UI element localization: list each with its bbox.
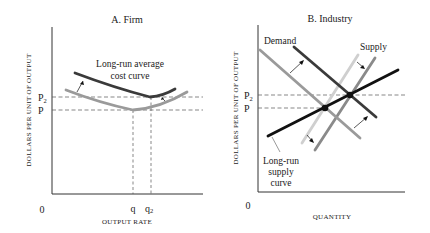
- firm-origin-label: 0: [40, 204, 45, 215]
- firm-q-label: q: [131, 203, 136, 214]
- industry-new-equilibrium-point: [347, 92, 354, 99]
- firm-p2-label: P2: [38, 92, 47, 104]
- supply-shift-arrowhead-lower: [309, 138, 314, 143]
- firm-x-axis-label: OUTPUT RATE: [102, 218, 152, 226]
- firm-curve-label-line2: cost curve: [111, 71, 150, 81]
- industry-shifted-demand-curve: [294, 47, 376, 117]
- industry-x-axis-label: QUANTITY: [313, 213, 352, 221]
- panel-firm: A. Firm DOLLARS PER UNIT OF OUTPUT P2 P …: [25, 14, 203, 226]
- industry-demand-label: Demand: [264, 36, 296, 46]
- panel-industry: B. Industry DOLLARS PER UNIT OF OUTPUT P…: [232, 13, 405, 221]
- industry-title: B. Industry: [308, 13, 353, 24]
- industry-p-label: P: [244, 103, 250, 114]
- firm-title: A. Firm: [111, 14, 143, 25]
- industry-initial-demand-curve: [260, 50, 360, 138]
- industry-supply-label: Supply: [360, 42, 387, 52]
- industry-p2-label: P2: [244, 90, 253, 102]
- lrs-label-leader: [272, 137, 280, 152]
- firm-q2-label: q2: [145, 203, 153, 214]
- lrs-label-line2: supply: [268, 167, 294, 177]
- lrs-label-line3: curve: [270, 178, 291, 188]
- economics-diagram: A. Firm DOLLARS PER UNIT OF OUTPUT P2 P …: [0, 0, 430, 233]
- industry-y-axis-label: DOLLARS PER UNIT OF OUTPUT: [232, 51, 240, 164]
- demand-shift-arrowhead-lower: [363, 116, 368, 121]
- firm-curve-label-line1: Long-run average: [96, 59, 164, 69]
- firm-p-label: P: [38, 105, 44, 116]
- industry-initial-equilibrium-point: [322, 105, 329, 112]
- lrs-label-line1: Long-run: [263, 156, 299, 166]
- firm-y-axis-label: DOLLARS PER UNIT OF OUTPUT: [25, 53, 33, 166]
- industry-origin-label: 0: [246, 200, 251, 211]
- firm-shift-arrowhead-left: [80, 81, 84, 85]
